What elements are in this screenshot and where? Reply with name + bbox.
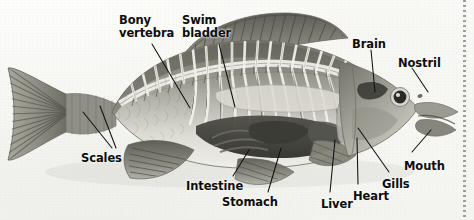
scan-artifact-dotted-rule (463, 0, 466, 220)
label-nostril: Nostril (398, 57, 441, 70)
label-layer: Bony vertebra Swim bladder Brain Nostril… (0, 0, 474, 220)
label-scales: Scales (81, 152, 122, 165)
label-swim-bladder-line2: bladder (182, 27, 231, 40)
label-bony-vertebra-line2: vertebra (119, 27, 174, 40)
label-liver: Liver (321, 198, 353, 211)
label-brain: Brain (352, 38, 386, 51)
label-intestine: Intestine (186, 180, 243, 193)
label-mouth: Mouth (404, 160, 445, 173)
fish-anatomy-figure: Bony vertebra Swim bladder Brain Nostril… (0, 0, 474, 220)
label-swim-bladder-line1: Swim (182, 13, 216, 27)
label-swim-bladder: Swim bladder (182, 14, 231, 40)
label-bony-vertebra: Bony vertebra (119, 14, 174, 40)
label-gills: Gills (382, 178, 410, 191)
label-heart: Heart (353, 190, 389, 203)
label-stomach: Stomach (222, 196, 278, 209)
label-bony-vertebra-line1: Bony (119, 13, 151, 27)
